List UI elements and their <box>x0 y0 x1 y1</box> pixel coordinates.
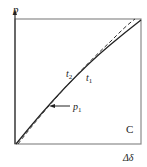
point-label-p1: p1 <box>72 101 82 114</box>
panel-label: C <box>126 123 133 135</box>
curve-t2 <box>18 19 135 144</box>
diagram-canvas: p Δδ C t2 t1 p1 <box>0 0 147 167</box>
y-axis-label: p <box>12 3 19 15</box>
plot-frame <box>15 19 141 144</box>
curve-label-t1: t1 <box>86 72 93 85</box>
curve-t1 <box>16 20 141 144</box>
curve-label-t2: t2 <box>66 68 73 81</box>
x-axis-label: Δδ <box>122 152 134 163</box>
